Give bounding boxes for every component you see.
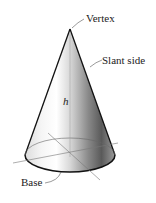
vertex-leader <box>72 19 84 28</box>
slant-side-label: Slant side <box>102 54 145 66</box>
cone-figure <box>0 0 156 203</box>
height-label: h <box>63 95 69 107</box>
base-leader-line <box>45 172 61 183</box>
vertex-label: Vertex <box>86 12 115 24</box>
base-label: Base <box>21 176 42 188</box>
slant-leader <box>90 60 102 67</box>
